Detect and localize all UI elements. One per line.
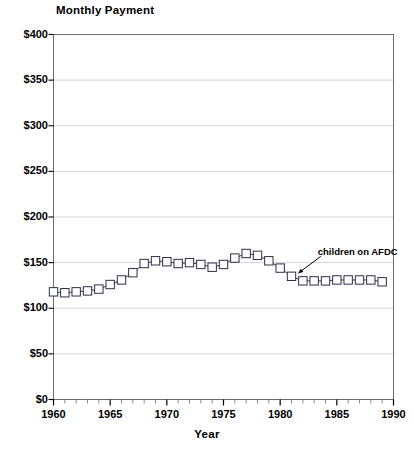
axis-ticks (49, 35, 394, 406)
annotation-arrow (298, 256, 320, 273)
x-axis-title: Year (0, 428, 414, 440)
plot-area (0, 0, 414, 453)
monthly-payment-chart: Monthly Payment $0$50$100$150$200$250$30… (0, 0, 414, 453)
annotation-label-children-on-afdc: children on AFDC (318, 246, 398, 257)
gridlines (54, 35, 394, 354)
